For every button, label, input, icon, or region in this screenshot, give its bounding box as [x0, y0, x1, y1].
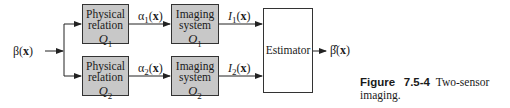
box-symbol: Q1	[83, 34, 128, 50]
symbol: Q	[99, 84, 108, 98]
estimator-box: Estimator	[263, 8, 313, 93]
figure-number: 7.5-4	[404, 76, 430, 88]
box-line2: relation	[88, 71, 123, 83]
subscript: 2	[108, 91, 113, 101]
subscript: 1	[197, 39, 202, 49]
box-symbol: O1	[172, 34, 218, 50]
figure-label: Figure	[360, 76, 395, 88]
i2-label: I2(x)	[228, 61, 251, 77]
output-symbol: β̂	[330, 43, 336, 57]
box-line2: relation	[88, 19, 123, 31]
box-line2: system	[179, 19, 211, 31]
symbol: O	[188, 32, 197, 46]
subscript: 2	[197, 91, 202, 101]
imaging-system-box-1: Imaging system O1	[171, 4, 219, 44]
i1-label: I1(x)	[228, 9, 251, 25]
subscript: 1	[108, 39, 113, 49]
arg: x	[153, 9, 159, 23]
input-symbol: β	[13, 44, 19, 58]
arg: x	[153, 61, 159, 75]
input-arg: x	[23, 44, 29, 58]
physical-relation-box-1: Physical relation Q1	[82, 4, 129, 44]
alpha2-label: α2(x)	[138, 61, 163, 77]
box-symbol: O2	[172, 86, 218, 102]
figure-caption: Figure 7.5-4 Two-sensor imaging.	[360, 76, 510, 102]
subscript: 1	[232, 15, 237, 25]
symbol: O	[188, 84, 197, 98]
physical-relation-box-2: Physical relation Q2	[82, 56, 129, 96]
box-symbol: Q2	[83, 86, 128, 102]
subscript: 2	[144, 67, 149, 77]
input-label: β(x)	[13, 44, 33, 59]
box-line2: system	[179, 71, 211, 83]
output-arg: x	[340, 43, 346, 57]
symbol: Q	[99, 32, 108, 46]
arg: x	[241, 9, 247, 23]
arg: x	[241, 61, 247, 75]
imaging-system-box-2: Imaging system O2	[171, 56, 219, 96]
estimator-label: Estimator	[266, 45, 311, 56]
output-label: β̂(x)	[330, 43, 350, 58]
subscript: 2	[232, 67, 237, 77]
subscript: 1	[144, 15, 149, 25]
alpha1-label: α1(x)	[138, 9, 163, 25]
